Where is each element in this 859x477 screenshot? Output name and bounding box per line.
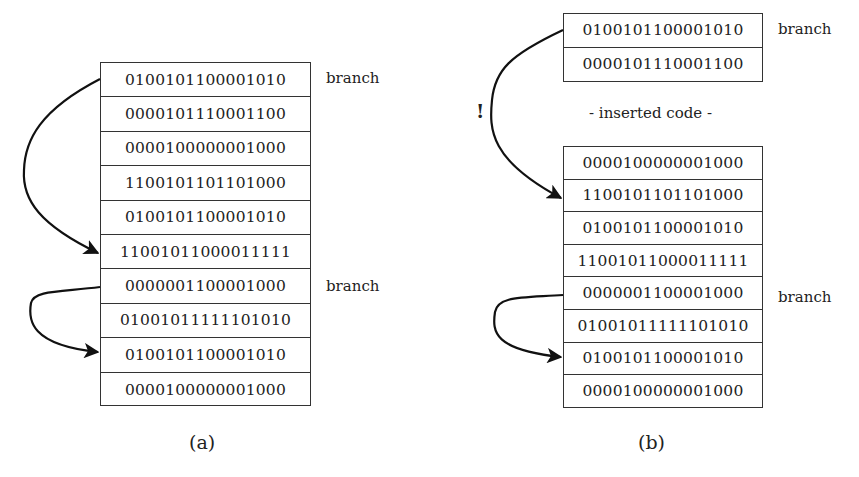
branch-arrow-a1 bbox=[24, 79, 100, 253]
branch-arrow-b1 bbox=[491, 30, 563, 198]
branch-arrows bbox=[0, 0, 859, 477]
branch-arrow-b2 bbox=[494, 295, 563, 357]
branch-arrow-a2 bbox=[30, 287, 100, 352]
